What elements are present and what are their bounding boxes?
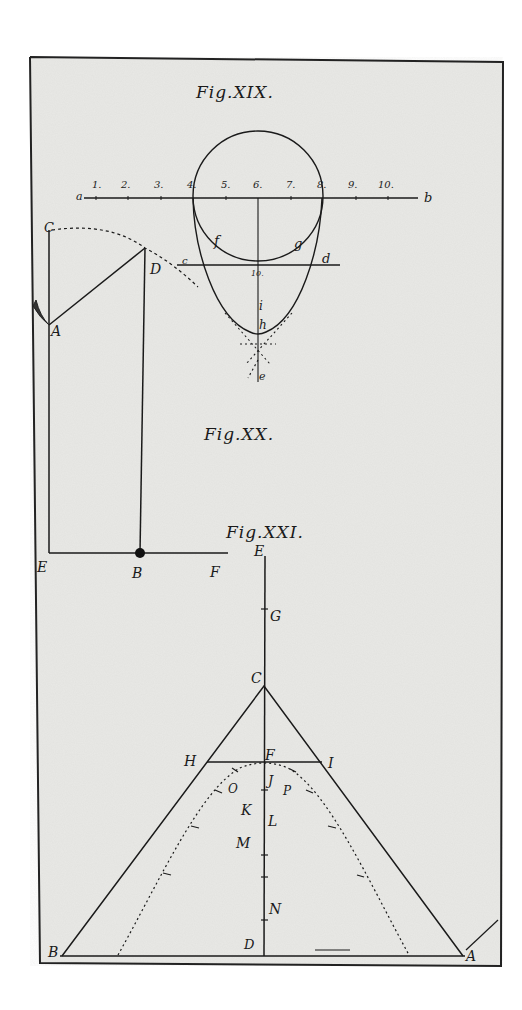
pendulum-bob [135, 548, 145, 558]
label-F: F [264, 747, 276, 763]
label-A: A [49, 323, 61, 339]
label-A: A [464, 948, 476, 964]
engraved-plate: Fig.XIX. a b 1. 2. 3. 4. 5. 6. 7. 8. 9. … [0, 0, 522, 1010]
tick-2: 2. [120, 179, 131, 190]
label-d: d [322, 251, 330, 266]
label-H: H [183, 753, 197, 769]
label-M: M [235, 835, 251, 851]
label-b: b [424, 190, 432, 205]
label-c: c [182, 255, 188, 266]
tick-7: 7. [286, 179, 296, 190]
tick-1: 1. [92, 179, 102, 190]
label-O: O [228, 782, 238, 796]
label-C: C [251, 670, 262, 686]
label-a: a [76, 190, 83, 203]
label-i: i [259, 299, 263, 313]
fig-19-caption: Fig.XIX. [195, 82, 274, 102]
label-N: N [268, 901, 282, 917]
tick-9: 9. [348, 179, 358, 190]
tick-3: 3. [154, 179, 164, 190]
label-B: B [131, 565, 142, 581]
fig-20-caption: Fig.XX. [203, 424, 274, 444]
label-D: D [243, 937, 255, 952]
label-K: K [240, 802, 253, 818]
label-I: I [327, 755, 334, 771]
label-B: B [47, 944, 58, 960]
fig-21-caption: Fig.XXI. [225, 522, 304, 542]
label-P: P [282, 784, 292, 798]
label-e: e [259, 370, 266, 383]
label-E: E [253, 543, 264, 559]
label-D: D [149, 261, 161, 277]
label-g: g [294, 236, 302, 251]
label-L: L [267, 813, 277, 829]
tick-10: 10. [378, 179, 394, 190]
tick-5: 5. [221, 179, 231, 190]
label-F: F [209, 564, 221, 580]
tick-6: 6. [253, 179, 263, 190]
label-C: C [44, 220, 54, 235]
label-E: E [36, 559, 47, 575]
label-10: 10. [251, 269, 264, 278]
label-h: h [259, 318, 267, 332]
label-G: G [270, 608, 281, 624]
